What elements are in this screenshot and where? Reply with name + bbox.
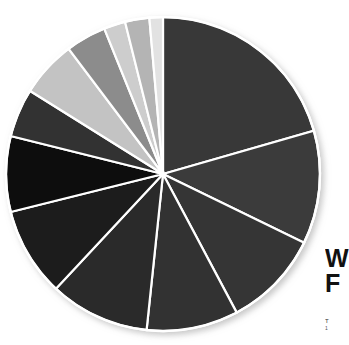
side-text-block: W F T 1 — [325, 246, 349, 331]
pie-chart-svg — [0, 0, 349, 345]
side-heading-line1: W — [325, 246, 349, 271]
side-caption-line2: 1 — [325, 326, 349, 331]
pie-chart-screenshot: W F T 1 — [0, 0, 349, 345]
side-caption-line1: T — [325, 318, 349, 324]
pie-slices-group — [6, 17, 320, 331]
side-heading-line2: F — [325, 271, 349, 296]
pie-chart-figure — [0, 0, 349, 345]
